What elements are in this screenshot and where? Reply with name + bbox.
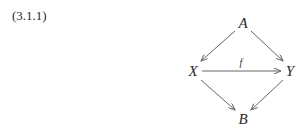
arrow-a-to-y (251, 31, 283, 61)
node-x: X (187, 63, 198, 79)
node-y: Y (286, 63, 296, 79)
morphism-label-f: f (240, 57, 244, 68)
node-b: B (238, 111, 247, 127)
node-a: A (237, 15, 248, 31)
arrow-a-to-x (201, 31, 235, 61)
arrow-y-to-b (251, 80, 283, 110)
arrow-x-to-b (201, 80, 235, 110)
commutative-diagram: A X Y B f (0, 0, 298, 128)
